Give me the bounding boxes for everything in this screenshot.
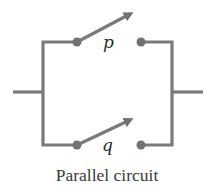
switch-p-left-terminal bbox=[73, 38, 82, 47]
switch-q-right-terminal bbox=[137, 141, 146, 150]
switch-p-right-terminal bbox=[137, 38, 146, 47]
left-bus-wire bbox=[43, 42, 77, 145]
switch-q: q bbox=[73, 120, 146, 155]
switch-p-label: p bbox=[103, 32, 114, 52]
switch-q-left-terminal bbox=[73, 141, 82, 150]
switch-q-label: q bbox=[102, 135, 113, 155]
parallel-circuit-diagram: p q Parallel circuit bbox=[0, 0, 215, 187]
right-bus-wire bbox=[141, 42, 172, 145]
switch-p: p bbox=[73, 14, 146, 52]
diagram-caption: Parallel circuit bbox=[56, 165, 159, 185]
